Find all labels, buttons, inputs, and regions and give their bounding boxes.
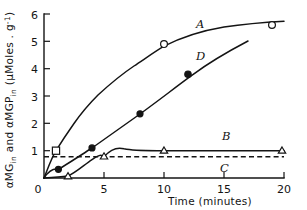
data-point-A-3 xyxy=(269,22,276,29)
data-point-A-1 xyxy=(52,147,59,154)
data-point-D-4 xyxy=(185,71,191,77)
y-tick-label-5: 5 xyxy=(31,36,38,49)
y-tick-label-4: 4 xyxy=(31,63,38,76)
data-markers-group xyxy=(52,22,285,179)
x-axis-title-group: Time (minutes) xyxy=(167,195,252,207)
y-title-sub-2: in xyxy=(9,89,18,96)
y-tick-label-2: 2 xyxy=(31,118,38,131)
x-tick-group xyxy=(104,172,284,178)
y-title-mid: and xyxy=(3,128,15,156)
curve-label-B: B xyxy=(221,129,230,143)
data-point-A-2 xyxy=(161,41,168,48)
y-tick-label-0: 0 xyxy=(35,183,42,196)
x-axis-title: Time (minutes) xyxy=(167,195,252,207)
figure-container: 6 5 4 3 2 1 0 5 10 15 20 xyxy=(0,0,307,210)
x-tick-label-15: 15 xyxy=(217,183,231,196)
data-point-D-1 xyxy=(55,166,61,172)
y-title-sub-1: in xyxy=(9,156,18,163)
x-tick-labels: 5 10 15 20 xyxy=(101,183,292,196)
y-tick-group xyxy=(44,14,50,151)
curve-label-A: A xyxy=(195,17,204,31)
y-tick-label-6: 6 xyxy=(31,9,38,22)
curve-label-C: C xyxy=(220,161,229,175)
y-axis-title-group: αMGin and αMGPin (μMoles . g-1) xyxy=(3,12,18,189)
y-title-part-1: αMG xyxy=(3,163,15,188)
y-title-units-close: ) xyxy=(3,12,15,16)
y-tick-label-3: 3 xyxy=(31,91,38,104)
y-title-units-exp: -1 xyxy=(3,16,12,24)
y-tick-label-1: 1 xyxy=(31,145,38,158)
y-axis-title: αMGin and αMGPin (μMoles . g-1) xyxy=(3,12,18,189)
x-tick-label-10: 10 xyxy=(157,183,171,196)
x-tick-label-5: 5 xyxy=(101,183,108,196)
data-point-D-2 xyxy=(89,145,95,151)
curve-label-D: D xyxy=(195,49,205,63)
y-title-units-open: (μMoles . g xyxy=(3,24,15,89)
data-point-D-3 xyxy=(137,111,143,117)
chart-plot: 6 5 4 3 2 1 0 5 10 15 20 xyxy=(0,0,307,210)
y-tick-labels: 6 5 4 3 2 1 0 xyxy=(31,9,42,196)
x-tick-label-20: 20 xyxy=(277,183,291,196)
y-title-part-2: αMGP xyxy=(3,96,15,128)
